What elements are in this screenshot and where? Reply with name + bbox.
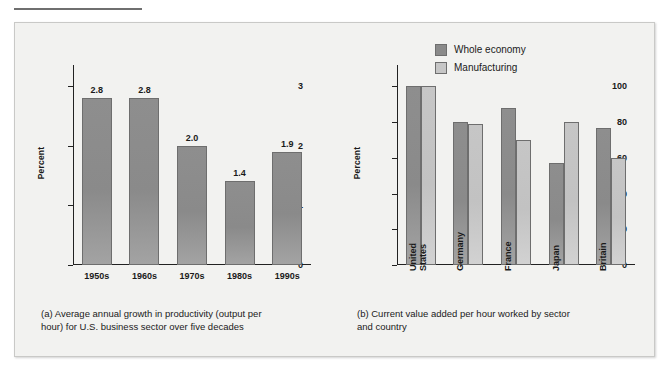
panel-b-caption: (b) Current value added per hour worked … [357,307,647,333]
bar-japan-manufacturing[interactable] [564,122,579,265]
y-tick-label-3: 3 [298,82,303,91]
panel-b-y-axis-label: Percent [352,133,362,193]
y-tick-60 [392,158,397,159]
legend-swatch-icon-whole-economy [435,44,447,56]
legend-label-whole-economy: Whole economy [454,43,526,57]
panel-b-y-axis [397,65,398,265]
panel-a-plot-area: 01232.82.82.01.41.9 [73,65,311,265]
y-tick-label-80: 80 [617,118,627,127]
y-tick-3 [68,86,73,87]
x-axis-label-japan: Japan [551,245,561,271]
x-axis-label-united-states-2: States [418,244,428,271]
y-tick-1 [68,205,73,206]
panel-a-y-axis [73,65,74,265]
bar-value-1960s: 2.8 [124,85,164,95]
bar-united-states-manufacturing[interactable] [421,86,436,265]
bar-value-1990s: 1.9 [267,139,307,149]
bar-france-manufacturing[interactable] [516,140,531,265]
y-tick-20 [392,229,397,230]
y-tick-40 [392,194,397,195]
bar-germany-manufacturing[interactable] [468,124,483,265]
bar-1970s[interactable] [177,146,207,265]
bar-britain-manufacturing[interactable] [611,158,626,265]
bar-1990s[interactable] [272,152,302,265]
y-tick-0 [68,265,73,266]
x-axis-label-1980s: 1980s [215,271,265,281]
x-axis-label-germany: Germany [455,232,465,271]
panel-a-y-axis-label: Percent [36,133,46,193]
x-axis-label-1970s: 1970s [167,271,217,281]
bar-1950s[interactable] [82,98,112,265]
panel-a-caption: (a) Average annual growth in productivit… [41,307,321,333]
x-axis-label-1960s: 1960s [119,271,169,281]
panel-b-plot-area: 020406080100 [397,65,635,265]
y-tick-100 [392,86,397,87]
bar-united-states-whole-economy[interactable] [406,86,421,265]
x-axis-label-united-states-1: United [408,243,418,271]
x-axis-label-1950s: 1950s [72,271,122,281]
bar-1960s[interactable] [129,98,159,265]
figure-panel: Percent 01232.82.82.01.41.9 (a) Average … [14,22,655,357]
y-tick-0 [392,265,397,266]
bar-value-1970s: 2.0 [172,133,212,143]
top-rule-divider [14,8,142,10]
y-tick-2 [68,146,73,147]
chart-panel-b: Percent Whole economy Manufacturing 0204… [335,23,656,358]
bar-1980s[interactable] [225,181,255,265]
x-axis-label-britain: Britain [598,242,608,271]
chart-panel-a: Percent 01232.82.82.01.41.9 (a) Average … [15,23,335,358]
y-tick-label-100: 100 [612,82,627,91]
y-tick-80 [392,122,397,123]
figure-root: Percent 01232.82.82.01.41.9 (a) Average … [0,0,670,372]
bar-value-1950s: 2.8 [77,85,117,95]
bar-value-1980s: 1.4 [220,168,260,178]
x-axis-label-1990s: 1990s [262,271,312,281]
x-axis-label-france: France [503,241,513,271]
